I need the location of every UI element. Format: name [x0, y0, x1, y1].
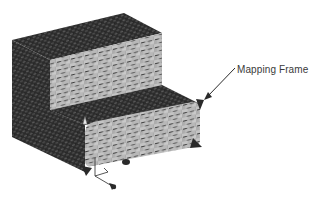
- gizmo-axis-tip: [112, 185, 116, 189]
- diagram-canvas: Mapping Frame: [0, 0, 317, 204]
- annotation-arrow-line: [208, 68, 235, 96]
- mapping-frame-label: Mapping Frame: [237, 64, 308, 75]
- frame-edge-handle[interactable]: [122, 159, 130, 165]
- stepped-block-illustration: [0, 0, 317, 204]
